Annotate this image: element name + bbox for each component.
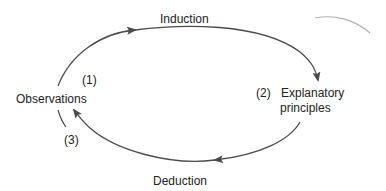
edge-label-deduction: Deduction xyxy=(153,174,207,188)
deduction-arrow xyxy=(215,122,300,160)
node-explanatory-line2: principles xyxy=(280,101,331,115)
deduction-arc xyxy=(74,110,215,161)
step-label-1: (1) xyxy=(82,73,97,87)
node-explanatory-line1: Explanatory xyxy=(281,86,344,100)
edge-label-induction: Induction xyxy=(160,12,209,26)
node-observations: Observations xyxy=(16,92,87,106)
step3-arc xyxy=(58,110,66,127)
step-label-3: (3) xyxy=(64,133,79,147)
faint-stroke xyxy=(315,17,370,33)
step-label-2: (2) xyxy=(256,86,271,100)
induction-arc xyxy=(135,26,318,80)
